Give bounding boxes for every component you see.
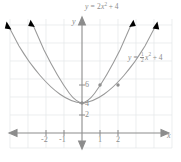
eq-right-exponent: 2 [148,51,151,57]
curve1-arrow-left [28,20,35,27]
eq-right-constant: 4 [159,53,163,62]
y-tick-label-2: 2 [85,110,89,119]
curve1-arrow-right [129,20,136,27]
curve2-arrow-left [5,22,12,30]
eq-top-plus: + [109,2,113,11]
equation-label-narrow-parabola: y=2x2+4 [85,2,119,11]
y-tick-label-4: 4 [85,99,89,108]
axis-lines [9,17,169,149]
curve2-arrow-right [153,22,160,30]
eq-right-equals: = [134,53,138,62]
eq-right-fraction: 12 [140,52,144,64]
y-tick-label-6: 6 [85,80,89,89]
coordinate-plane [0,0,181,162]
eq-top-equals: = [91,2,95,11]
eq-top-lhs: y [85,2,89,11]
eq-top-exponent: 2 [104,1,107,7]
y-axis-label: y [72,17,76,26]
equation-label-wide-parabola: y=12x2+4 [128,52,163,64]
x-tick-label--2: -2 [41,135,48,144]
vertex-point-0-4 [80,101,83,104]
eq-right-lhs: y [128,53,132,62]
x-axis-label: x [167,131,171,140]
x-tick-label--1: -1 [59,135,66,144]
y-axis-arrow-up [79,17,86,25]
x-tick-label-2: 2 [116,135,120,144]
grid-lines [10,19,172,148]
eq-right-plus: + [153,53,157,62]
marked-point-1-6 [98,83,101,86]
marked-point-2-6 [116,83,119,86]
eq-right-frac-denominator: 2 [140,58,144,64]
parabola-graph-figure: y=2x2+4 y=12x2+4 y x 6 4 2 -2 -1 1 2 [0,0,181,162]
x-tick-label-1: 1 [98,135,102,144]
eq-top-constant: 4 [115,2,119,11]
